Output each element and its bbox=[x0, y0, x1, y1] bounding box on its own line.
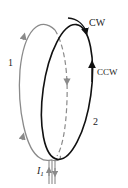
loop-1-label: 1 bbox=[8, 57, 13, 68]
loop-1-arrow-lower bbox=[22, 136, 23, 140]
loop-1-back-dashed bbox=[55, 30, 67, 156]
current-subscript: 1 bbox=[40, 170, 44, 178]
loop-1-arrow-upper bbox=[23, 36, 24, 40]
ccw-label: CCW bbox=[97, 67, 118, 77]
cw-label: CW bbox=[89, 17, 106, 28]
loop-1-front bbox=[19, 24, 55, 158]
loop-2-label: 2 bbox=[93, 116, 98, 127]
two-loops-diagram: CW CCW 1 2 I1 bbox=[0, 0, 128, 188]
current-label: I1 bbox=[36, 165, 44, 178]
